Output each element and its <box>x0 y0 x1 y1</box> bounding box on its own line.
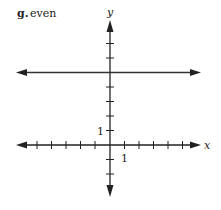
arrow-down-icon <box>107 185 114 197</box>
x-axis-label: x <box>204 139 211 152</box>
arrow-left-icon <box>16 69 27 76</box>
arrow-right-icon <box>190 142 201 149</box>
graph-figure: g. even x 1 <box>0 0 221 210</box>
problem-letter: g. <box>17 7 29 20</box>
problem-answer: even <box>30 7 56 20</box>
y-axis-label: y <box>106 6 114 19</box>
arrow-up-icon <box>107 20 114 32</box>
x-unit-label: 1 <box>121 152 128 165</box>
function-line-y-equals-5 <box>16 69 201 76</box>
x-axis: x 1 <box>16 139 211 165</box>
y-axis: y 1 <box>97 6 114 197</box>
arrow-left-icon <box>16 142 27 149</box>
arrow-right-icon <box>190 69 201 76</box>
y-unit-label: 1 <box>97 125 104 138</box>
